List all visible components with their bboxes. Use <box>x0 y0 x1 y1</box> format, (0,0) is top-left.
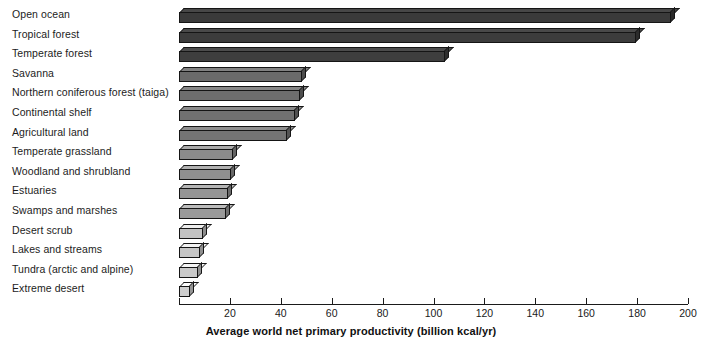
bar-body <box>179 8 675 23</box>
bar <box>179 86 304 101</box>
category-label: Open ocean <box>12 9 176 20</box>
bar <box>179 67 306 82</box>
x-axis-tick <box>535 298 536 304</box>
x-axis-title: Average world net primary productivity (… <box>0 325 702 337</box>
bar <box>179 282 194 297</box>
x-axis-tick <box>281 298 282 304</box>
bar-body <box>179 165 235 180</box>
x-axis-tick-label: 100 <box>425 307 443 319</box>
bar-front-face <box>179 228 203 239</box>
bar-front-face <box>179 90 300 101</box>
bar <box>179 224 207 239</box>
bar-front-face <box>179 12 671 23</box>
x-axis-tick <box>586 298 587 304</box>
plot-area <box>179 8 702 304</box>
category-label: Continental shelf <box>12 107 176 118</box>
category-label: Northern coniferous forest (taiga) <box>12 87 176 98</box>
bar-body <box>179 224 207 239</box>
bar-front-face <box>179 71 302 82</box>
bar <box>179 263 202 278</box>
bar-body <box>179 282 194 297</box>
category-label: Desert scrub <box>12 225 176 236</box>
bar-front-face <box>179 188 228 199</box>
x-axis-tick <box>383 298 384 304</box>
bar <box>179 47 449 62</box>
bar-body <box>179 28 640 43</box>
x-axis-tick <box>332 298 333 304</box>
bar-body <box>179 126 291 141</box>
category-label: Agricultural land <box>12 127 176 138</box>
bar-body <box>179 263 202 278</box>
bar-front-face <box>179 286 190 297</box>
x-axis-tick <box>179 298 180 304</box>
category-label: Swamps and marshes <box>12 205 176 216</box>
x-axis-tick <box>637 298 638 304</box>
x-axis-tick-label: 140 <box>527 307 545 319</box>
bar-body <box>179 184 232 199</box>
x-axis-tick <box>230 298 231 304</box>
bar <box>179 184 232 199</box>
bar-front-face <box>179 51 445 62</box>
bar <box>179 204 230 219</box>
category-label: Temperate forest <box>12 48 176 59</box>
x-axis-tick-label: 60 <box>326 307 338 319</box>
category-label: Estuaries <box>12 185 176 196</box>
bar-body <box>179 67 306 82</box>
bar-front-face <box>179 110 295 121</box>
bar-front-face <box>179 149 233 160</box>
x-axis-tick <box>434 298 435 304</box>
bar <box>179 243 204 258</box>
bar-front-face <box>179 130 287 141</box>
bar-body <box>179 106 299 121</box>
bar <box>179 8 675 23</box>
bar-body <box>179 47 449 62</box>
x-axis-tick-label: 120 <box>476 307 494 319</box>
bar <box>179 165 235 180</box>
category-label-column: Open oceanTropical forestTemperate fores… <box>0 8 176 304</box>
category-label: Temperate grassland <box>12 146 176 157</box>
x-axis-tick <box>484 298 485 304</box>
category-label: Woodland and shrubland <box>12 166 176 177</box>
x-axis-tick-label: 80 <box>377 307 389 319</box>
category-label: Tropical forest <box>12 29 176 40</box>
x-axis-tick-label: 20 <box>224 307 236 319</box>
bar-body <box>179 204 230 219</box>
category-label: Savanna <box>12 68 176 79</box>
bar-front-face <box>179 208 226 219</box>
x-axis-tick-label: 160 <box>577 307 595 319</box>
x-axis-tick-label: 40 <box>275 307 287 319</box>
bar-chart: Open oceanTropical forestTemperate fores… <box>0 0 702 344</box>
x-axis-tick <box>688 298 689 304</box>
bar <box>179 145 237 160</box>
x-axis-tick-label: 200 <box>679 307 697 319</box>
bar-front-face <box>179 247 200 258</box>
x-axis-tick-label: 180 <box>628 307 646 319</box>
category-label: Tundra (arctic and alpine) <box>12 264 176 275</box>
bar <box>179 28 640 43</box>
bar-body <box>179 86 304 101</box>
bar-front-face <box>179 32 636 43</box>
bar-body <box>179 243 204 258</box>
bar-front-face <box>179 169 231 180</box>
category-label: Lakes and streams <box>12 244 176 255</box>
bar-body <box>179 145 237 160</box>
bar-front-face <box>179 267 198 278</box>
x-axis-line <box>179 304 688 305</box>
bar <box>179 126 291 141</box>
bar <box>179 106 299 121</box>
category-label: Extreme desert <box>12 283 176 294</box>
